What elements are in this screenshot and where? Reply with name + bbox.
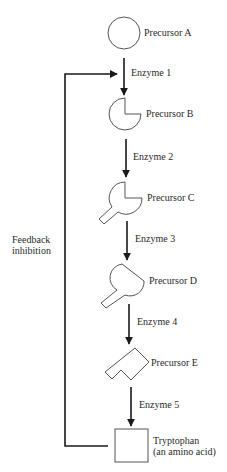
enzyme-1-label: Enzyme 1: [131, 67, 171, 78]
enzyme-3-label: Enzyme 3: [135, 233, 175, 244]
precursor-d-shape: [101, 264, 144, 308]
precursor-b-shape: [109, 98, 141, 130]
enzyme-4-label: Enzyme 4: [137, 316, 177, 327]
precursor-a-shape: [108, 17, 140, 49]
enzyme-5-label: Enzyme 5: [139, 399, 179, 410]
precursor-e-label: Precursor E: [151, 357, 198, 368]
precursor-c-label: Precursor C: [147, 192, 195, 203]
tryptophan-name: Tryptophan: [153, 435, 216, 446]
precursor-b-label: Precursor B: [146, 108, 194, 119]
precursor-a-label: Precursor A: [144, 27, 192, 38]
tryptophan-label: Tryptophan (an amino acid): [153, 435, 216, 457]
enzyme-2-label: Enzyme 2: [133, 151, 173, 162]
feedback-label-line2: inhibition: [12, 245, 51, 256]
tryptophan-shape: [115, 429, 148, 462]
precursor-c-shape: [99, 182, 142, 224]
tryptophan-note: (an amino acid): [153, 446, 216, 457]
precursor-d-label: Precursor D: [149, 275, 197, 286]
feedback-label-line1: Feedback: [12, 234, 51, 245]
feedback-inhibition-label: Feedback inhibition: [12, 234, 51, 256]
feedback-inhibition-arrow: [65, 74, 117, 446]
precursor-e-shape: [105, 348, 149, 380]
